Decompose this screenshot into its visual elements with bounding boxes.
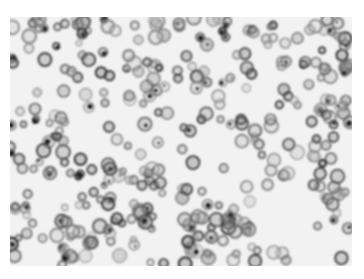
cell: [112, 134, 123, 145]
cell: [242, 84, 251, 93]
cell: [249, 255, 261, 266]
cell: [223, 17, 231, 25]
cell: [55, 112, 66, 123]
dark-nucleus: [347, 226, 351, 230]
cell: [15, 235, 21, 241]
dark-nucleus: [209, 236, 213, 240]
cell: [268, 154, 281, 167]
cell: [80, 88, 92, 100]
cell: [311, 58, 321, 68]
cell: [155, 177, 166, 188]
cell: [322, 17, 333, 26]
cell: [34, 18, 43, 27]
cell: [248, 244, 255, 251]
cell: [23, 211, 30, 218]
dark-nucleus: [82, 34, 85, 37]
cell: [22, 202, 29, 209]
cell: [10, 250, 21, 262]
cell: [207, 17, 220, 26]
cell: [236, 115, 245, 124]
cell: [278, 84, 289, 95]
cell: [125, 143, 132, 150]
cell: [102, 198, 114, 210]
cell: [100, 89, 108, 97]
cell: [233, 250, 240, 257]
cell: [62, 204, 68, 210]
cell: [313, 135, 321, 143]
cell: [10, 58, 18, 68]
cell: [192, 214, 200, 222]
dark-nucleus: [71, 70, 73, 72]
cell: [326, 198, 338, 210]
dark-nucleus: [190, 226, 194, 230]
cell: [178, 213, 191, 226]
cell: [136, 149, 146, 159]
dark-nucleus: [219, 81, 223, 85]
cell: [265, 114, 276, 125]
dark-nucleus: [10, 242, 15, 247]
cell: [75, 201, 83, 209]
cell: [307, 117, 317, 127]
cell: [145, 162, 158, 175]
dark-nucleus: [126, 69, 128, 71]
cell: [82, 53, 95, 66]
dark-nucleus: [37, 159, 40, 162]
dark-nucleus: [102, 51, 107, 56]
cell: [30, 165, 37, 172]
cell: [267, 23, 274, 30]
dark-nucleus: [157, 142, 160, 145]
cell: [75, 153, 87, 165]
dark-nucleus: [144, 123, 148, 127]
cell: [147, 259, 153, 265]
cell: [140, 100, 147, 107]
cell: [125, 176, 133, 184]
cell: [326, 153, 337, 164]
cell: [341, 189, 348, 196]
cell: [314, 222, 321, 229]
cell: [233, 51, 241, 59]
dark-nucleus: [332, 122, 335, 125]
cell: [241, 181, 253, 193]
cell: [267, 246, 280, 259]
cell: [131, 21, 139, 29]
cell: [58, 261, 66, 266]
cell: [54, 23, 61, 30]
dark-nucleus: [194, 249, 199, 254]
cell: [305, 25, 315, 35]
cell: [110, 25, 121, 36]
cell: [137, 181, 146, 190]
cell: [315, 168, 326, 179]
cell: [300, 57, 310, 67]
cell: [292, 33, 303, 44]
cell: [281, 167, 294, 180]
cell: [24, 44, 33, 53]
cell: [229, 204, 238, 213]
cell: [283, 139, 294, 150]
dark-nucleus: [336, 104, 339, 107]
dark-nucleus: [56, 45, 60, 49]
cell: [29, 220, 36, 227]
cell: [236, 135, 249, 148]
cell: [47, 120, 53, 126]
dark-nucleus: [336, 21, 338, 23]
cell: [148, 17, 158, 26]
cell: [102, 158, 115, 171]
cell: [39, 53, 52, 66]
cell: [291, 97, 298, 104]
dark-nucleus: [108, 179, 111, 182]
micrograph-image: [10, 17, 352, 266]
cell: [326, 95, 336, 105]
cell: [241, 62, 253, 74]
cell: [10, 20, 19, 34]
cell: [262, 179, 273, 190]
cell: [181, 51, 191, 61]
cell: [128, 215, 136, 223]
cell: [76, 17, 90, 30]
cell: [83, 202, 90, 209]
cell: [79, 250, 92, 263]
cell: [66, 225, 79, 238]
cell: [319, 160, 326, 167]
cell: [174, 74, 182, 82]
cell: [199, 66, 210, 77]
cell: [56, 145, 70, 159]
